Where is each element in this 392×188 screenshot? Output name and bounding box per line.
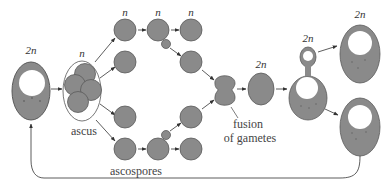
label-ploidy-zygote: 2n xyxy=(256,58,267,70)
label-ploidy-budding: 2n xyxy=(303,32,314,44)
label-of-gametes: of gametes xyxy=(224,131,276,146)
zygote xyxy=(248,73,274,105)
yeast-life-cycle-diagram xyxy=(0,0,392,188)
label-fusion: fusion xyxy=(233,117,263,132)
label-ploidy-diploid-start: 2n xyxy=(26,44,37,56)
label-ploidy-ascus: n xyxy=(79,47,85,59)
haploid-budding-cells xyxy=(147,19,171,160)
diploid-daughter-top xyxy=(340,25,380,83)
fusing-gametes xyxy=(214,56,236,105)
ascus xyxy=(63,61,102,121)
diploid-daughter-bottom xyxy=(340,98,380,156)
label-ploidy-spore-1: n xyxy=(122,6,128,18)
label-ascospores: ascospores xyxy=(110,164,162,179)
label-ploidy-spore-3: n xyxy=(188,6,194,18)
label-ascus: ascus xyxy=(71,124,97,139)
ascospores-column-1 xyxy=(114,19,136,160)
label-ploidy-spore-2: n xyxy=(155,6,161,18)
label-ploidy-daughter: 2n xyxy=(355,8,366,20)
haploid-daughter-cells xyxy=(180,19,202,160)
diploid-cell-start xyxy=(12,62,50,120)
diploid-budding-cell xyxy=(289,47,327,120)
